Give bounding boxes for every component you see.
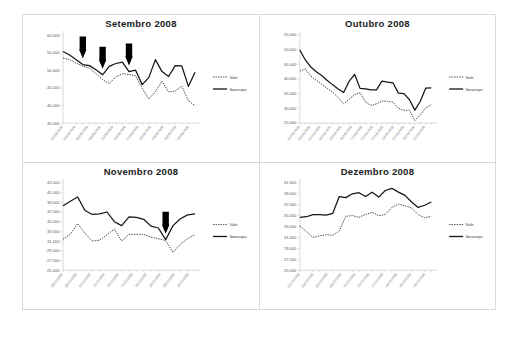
x-tick-label-group: 17/11/2008 (120, 272, 134, 288)
y-tick-label: 29.000 (284, 246, 297, 251)
x-tick-label-group: 03/12/2008 (301, 272, 315, 288)
y-tick-label: 37.000 (284, 202, 297, 207)
x-tick-label-group: 13/11/2008 (106, 272, 120, 288)
chart-panel-setembro: Setembro 2008 35.00040.00045.00050.00055… (23, 15, 259, 162)
x-tick-label: 03/11/2008 (50, 272, 64, 288)
x-tick-label: 11/11/2008 (92, 272, 106, 288)
y-tick-label: 45.000 (284, 62, 297, 67)
x-tick-label-group: 11/11/2008 (92, 272, 106, 288)
x-tick-label: 01/12/2008 (287, 272, 301, 288)
down-arrow-icon (99, 47, 107, 69)
y-tick-label: 41.000 (47, 190, 60, 195)
figure-canvas: Setembro 2008 35.00040.00045.00050.00055… (0, 0, 518, 348)
x-tick-label-group: 15/12/2008 (356, 272, 370, 288)
down-arrow-icon (125, 44, 133, 66)
x-tick-label-group: 19/11/2008 (134, 272, 148, 288)
x-tick-label-group: 07/11/2008 (78, 272, 92, 288)
legend-label-ibovespa: Ibovespa (466, 234, 484, 239)
annotation-down-arrow (125, 44, 133, 66)
chart-panel-outubro: Outubro 2008 25.00030.00035.00040.00045.… (259, 15, 495, 162)
chart-grid-frame: Setembro 2008 35.00040.00045.00050.00055… (22, 14, 496, 310)
y-tick-label: 29.000 (47, 248, 60, 253)
y-tick-label: 25.000 (284, 120, 297, 125)
chart-panel-novembro: Novembro 2008 25.00027.00029.00031.00033… (23, 162, 259, 309)
y-tick-label: 31.000 (284, 235, 297, 240)
x-tick-label: 07/11/2008 (78, 272, 92, 288)
x-tick-label-group: 19/12/2008 (384, 272, 398, 288)
y-tick-label: 35.000 (47, 121, 60, 126)
y-tick-label: 35.000 (284, 213, 297, 218)
x-tick-label-group: 29/12/2008 (412, 272, 426, 288)
x-tick-label-group: 11/12/2008 (343, 272, 357, 288)
x-tick-label: 03/12/2008 (301, 272, 315, 288)
chart-plot-dezembro: 25.00027.00029.00031.00033.00035.00037.0… (260, 163, 495, 309)
x-tick-label: 28/11/2008 (176, 272, 190, 288)
y-tick-label: 30.000 (284, 106, 297, 111)
y-tick-label: 39.000 (47, 200, 60, 205)
chart-plot-setembro: 35.00040.00045.00050.00055.00060.00001/0… (23, 15, 259, 162)
x-tick-label: 24/11/2008 (148, 272, 162, 288)
x-tick-label: 17/11/2008 (120, 272, 134, 288)
legend-label-ibovespa: Ibovespa (230, 87, 248, 92)
x-tick-label: 17/12/2008 (370, 272, 384, 288)
x-tick-label: 19/12/2008 (384, 272, 398, 288)
x-tick-label-group: 01/12/2008 (287, 272, 301, 288)
series-line-vale (300, 69, 431, 121)
y-tick-label: 33.000 (47, 229, 60, 234)
annotation-down-arrow (162, 212, 170, 234)
x-tick-label: 05/12/2008 (315, 272, 329, 288)
x-tick-label: 29/09/2008 (176, 125, 190, 141)
series-line-vale (63, 224, 195, 253)
y-tick-label: 37.000 (47, 210, 60, 215)
y-tick-label: 55.000 (47, 50, 60, 55)
x-tick-label: 29/12/2008 (412, 272, 426, 288)
x-tick-label-group: 03/11/2008 (50, 272, 64, 288)
series-line-ibovespa (300, 50, 431, 110)
y-tick-label: 41.000 (284, 180, 297, 185)
down-arrow-icon (162, 212, 170, 234)
y-tick-label: 25.000 (47, 268, 60, 273)
x-tick-label: 11/12/2008 (343, 272, 357, 288)
y-tick-label: 31.000 (47, 239, 60, 244)
chart-plot-outubro: 25.00030.00035.00040.00045.00050.00055.0… (260, 15, 495, 162)
x-tick-label: 15/12/2008 (356, 272, 370, 288)
legend-label-ibovespa: Ibovespa (466, 87, 484, 92)
series-line-ibovespa (300, 188, 431, 217)
x-tick-label-group: 29/09/2008 (176, 125, 190, 141)
y-tick-label: 50.000 (47, 68, 60, 73)
annotation-down-arrow (79, 37, 87, 59)
y-tick-label: 43.000 (47, 180, 60, 185)
x-tick-label: 19/11/2008 (134, 272, 148, 288)
x-tick-label-group: 09/12/2008 (329, 272, 343, 288)
y-tick-label: 55.000 (284, 32, 297, 37)
chart-panel-dezembro: Dezembro 2008 25.00027.00029.00031.00033… (259, 162, 495, 309)
legend-label-ibovespa: Ibovespa (230, 234, 248, 239)
y-tick-label: 45.000 (47, 85, 60, 90)
x-tick-label-group: 05/12/2008 (315, 272, 329, 288)
y-tick-label: 33.000 (284, 224, 297, 229)
y-tick-label: 40.000 (47, 103, 60, 108)
legend-label-vale: Vale (466, 222, 475, 227)
x-tick-label: 26/11/2008 (162, 272, 176, 288)
series-line-ibovespa (63, 197, 195, 240)
series-line-vale (300, 204, 431, 237)
down-arrow-icon (79, 37, 87, 59)
x-tick-label-group: 05/11/2008 (64, 272, 78, 288)
chart-plot-novembro: 25.00027.00029.00031.00033.00035.00037.0… (23, 163, 259, 309)
legend-label-vale: Vale (466, 75, 475, 80)
y-tick-label: 25.000 (284, 268, 297, 273)
x-tick-label-group: 23/12/2008 (398, 272, 412, 288)
y-tick-label: 50.000 (284, 47, 297, 52)
y-tick-label: 27.000 (47, 258, 60, 263)
y-tick-label: 39.000 (284, 191, 297, 196)
y-tick-label: 27.000 (284, 257, 297, 262)
x-tick-label: 23/12/2008 (398, 272, 412, 288)
x-tick-label-group: 17/12/2008 (370, 272, 384, 288)
x-tick-label-group: 24/11/2008 (148, 272, 162, 288)
x-tick-label: 09/12/2008 (329, 272, 343, 288)
x-tick-label: 05/11/2008 (64, 272, 78, 288)
x-tick-label: 13/11/2008 (106, 272, 120, 288)
legend-label-vale: Vale (230, 75, 239, 80)
y-tick-label: 35.000 (47, 219, 60, 224)
legend-label-vale: Vale (230, 222, 239, 227)
